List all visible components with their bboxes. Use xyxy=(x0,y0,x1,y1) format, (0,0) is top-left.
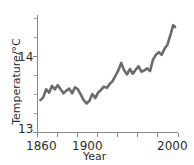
y-axis-group xyxy=(33,15,38,133)
x-axis-tick-label-2000: 2000 xyxy=(157,139,188,153)
temperature-series-line xyxy=(40,25,175,103)
temperature-line-chart: · ·· ·· 14 13 1860 1900 2000 xyxy=(0,0,194,165)
x-axis-title: Year xyxy=(83,150,106,163)
x-axis-group xyxy=(38,133,179,138)
y-axis-title: Temperature/°C xyxy=(10,27,23,137)
x-axis-tick-label-1860: 1860 xyxy=(26,139,57,153)
